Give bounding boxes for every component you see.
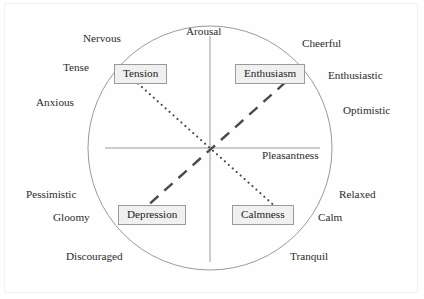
outer-label-anxious: Anxious xyxy=(36,97,74,108)
outer-label-cheerful: Cheerful xyxy=(302,38,341,49)
outer-label-pessimistic: Pessimistic xyxy=(26,189,76,200)
outer-label-nervous: Nervous xyxy=(83,33,121,44)
outer-label-calm: Calm xyxy=(318,212,342,223)
outer-label-gloomy: Gloomy xyxy=(53,212,90,223)
outer-label-enthusiastic: Enthusiastic xyxy=(328,70,383,81)
outer-label-tense: Tense xyxy=(63,62,89,73)
quadrant-box-enthusiasm[interactable]: Enthusiasm xyxy=(235,64,305,84)
diagram-canvas xyxy=(0,0,424,299)
affect-circumplex-figure: Arousal Pleasantness Tension Enthusiasm … xyxy=(0,0,424,299)
outer-label-relaxed: Relaxed xyxy=(339,189,376,200)
quadrant-box-tension[interactable]: Tension xyxy=(114,64,167,84)
quadrant-box-calmness[interactable]: Calmness xyxy=(232,205,294,225)
outer-label-optimistic: Optimistic xyxy=(343,105,390,116)
outer-label-tranquil: Tranquil xyxy=(290,251,328,262)
quadrant-box-depression[interactable]: Depression xyxy=(118,205,186,225)
outer-label-discouraged: Discouraged xyxy=(66,251,123,262)
arousal-axis-label: Arousal xyxy=(186,26,221,37)
pleasantness-axis-label: Pleasantness xyxy=(262,150,319,161)
